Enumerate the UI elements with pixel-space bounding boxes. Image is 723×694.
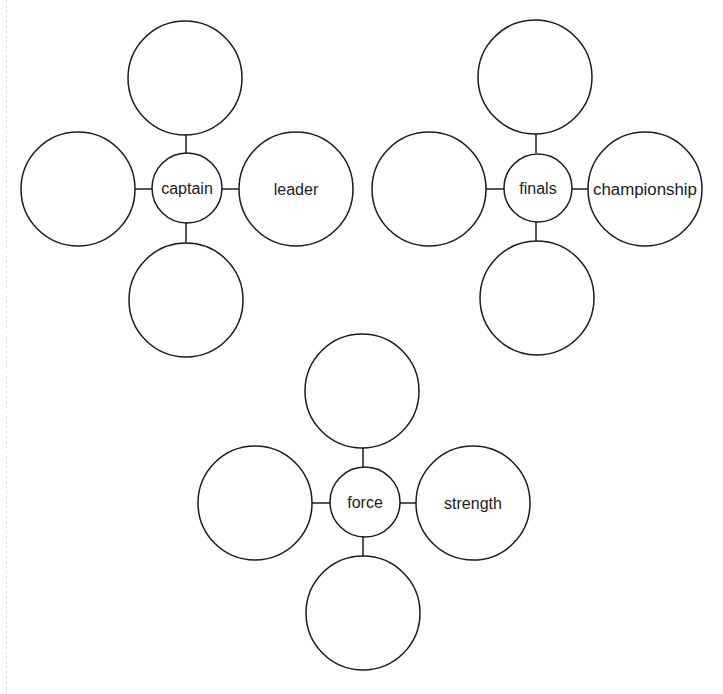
related-word-right: championship <box>593 181 697 198</box>
word-webs-diagram: captain leader finals championship <box>0 0 723 694</box>
answer-bubble-top[interactable] <box>305 334 419 448</box>
center-word: force <box>347 494 383 511</box>
answer-bubble-left[interactable] <box>372 132 486 246</box>
word-web-captain: captain leader <box>21 21 353 357</box>
answer-bubble-left[interactable] <box>198 446 312 560</box>
answer-bubble-bottom[interactable] <box>129 243 243 357</box>
answer-bubble-bottom[interactable] <box>480 241 594 355</box>
center-word: finals <box>519 180 556 197</box>
center-word: captain <box>161 180 213 197</box>
related-word-right: strength <box>444 495 502 512</box>
page-margin-guide <box>6 0 7 694</box>
related-word-right: leader <box>274 181 319 198</box>
answer-bubble-bottom[interactable] <box>306 556 420 670</box>
word-web-finals: finals championship <box>372 20 702 355</box>
answer-bubble-top[interactable] <box>128 21 242 135</box>
worksheet-canvas: captain leader finals championship <box>0 0 723 694</box>
answer-bubble-left[interactable] <box>21 132 135 246</box>
word-web-force: force strength <box>198 334 530 670</box>
answer-bubble-top[interactable] <box>478 20 592 134</box>
